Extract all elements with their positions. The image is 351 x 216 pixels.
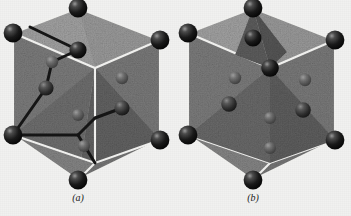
- panel-a-caption: (a): [58, 192, 98, 203]
- crystal-structure-canvas: [0, 0, 351, 216]
- panel-b-caption: (b): [233, 192, 273, 203]
- crystal-structure-figure: (a) (b): [0, 0, 351, 216]
